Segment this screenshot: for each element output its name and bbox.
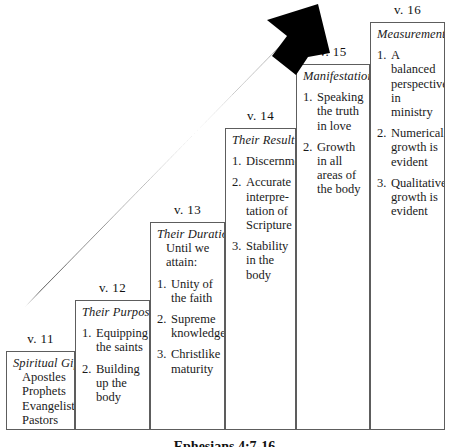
box-heading: Manifestations [303,69,364,83]
list-item-text: Christlike maturity [171,347,220,375]
list-item-number: 3. [232,239,241,253]
list-item-text: Unity of the faith [171,277,213,305]
box-list-item: 3.Qualitative growth is evident [377,176,439,219]
box-heading: Measurements [377,27,439,41]
box-list-item: 3.Christlike maturity [157,347,219,375]
list-item-number: 1. [232,154,241,168]
box-list-item: 3.Stability in the body [232,239,290,282]
step-box-6: Measurements1.A balanced perspective in … [370,22,445,430]
list-item-text: Building up the body [96,362,140,404]
box-line: Prophets [13,384,69,398]
verse-label-5: v. 15 [296,44,370,60]
diagram-canvas: v. 11Spiritual GiftsApostlesProphetsEvan… [0,0,449,447]
step-box-2: Their Purpose1.Equipping the saints2.Bui… [75,300,150,430]
box-list-item: 2.Numerical growth is evident [377,126,439,169]
box-line: Until we [157,241,219,255]
box-heading: Their Duration [157,227,219,241]
list-item-number: 1. [82,326,91,340]
box-list-item: 1.A balanced perspective in ministry [377,48,439,119]
step-box-5: Manifestations1.Speaking the truth in lo… [296,64,370,430]
box-line: Evangelists [13,399,69,413]
list-item-text: Equipping the saints [96,326,148,354]
box-list-item: 2.Building up the body [82,362,144,405]
verse-label-6: v. 16 [370,2,445,18]
box-list-item: 2.Supreme knowledge [157,312,219,340]
list-item-number: 3. [157,347,166,361]
list-item-text: Numerical growth is evident [391,126,444,168]
box-list-item: 2.Accurate interpre-tation of Scripture [232,175,290,232]
list-item-text: Supreme knowledge [171,312,225,340]
list-item-number: 2. [377,126,386,140]
box-list-item: 1.Unity of the faith [157,277,219,305]
box-line: Apostles [13,370,69,384]
box-line: Pastors [13,413,69,427]
step-box-4: Their Result1.Discernment2.Accurate inte… [225,128,296,430]
list-item-number: 2. [157,312,166,326]
list-item-number: 3. [377,176,386,190]
list-item-text: Stability in the body [246,239,288,281]
figure-caption: Ephesians 4:7-16 [0,439,449,447]
box-heading: Their Result [232,133,290,147]
box-list-item: 2.Growth in all areas of the body [303,140,364,197]
list-item-number: 1. [157,277,166,291]
verse-label-3: v. 13 [150,202,225,218]
list-item-number: 1. [377,48,386,62]
list-item-text: Growth in all areas of the body [317,140,360,197]
list-item-text: Accurate interpre-tation of Scripture [246,175,292,232]
verse-label-4: v. 14 [225,108,296,124]
list-item-text: Speaking the truth in love [317,90,364,132]
list-item-number: 1. [303,90,312,104]
box-heading: Their Purpose [82,305,144,319]
list-item-text: Qualitative growth is evident [391,176,445,218]
list-item-number: 2. [303,140,312,154]
list-item-number: 2. [82,362,91,376]
box-list-item: 1.Discernment [232,154,290,168]
step-box-1: Spiritual GiftsApostlesProphetsEvangelis… [6,351,75,430]
box-line: Teachers [13,427,69,430]
list-item-text: A balanced perspective in ministry [391,48,445,119]
box-line: attain: [157,255,219,269]
verse-label-2: v. 12 [75,280,150,296]
verse-label-1: v. 11 [6,331,75,347]
list-item-text: Discernment [246,154,296,168]
box-heading: Spiritual Gifts [13,356,69,370]
step-box-3: Their DurationUntil weattain:1.Unity of … [150,222,225,430]
list-item-number: 2. [232,175,241,189]
box-list-item: 1.Equipping the saints [82,326,144,354]
box-list-item: 1.Speaking the truth in love [303,90,364,133]
